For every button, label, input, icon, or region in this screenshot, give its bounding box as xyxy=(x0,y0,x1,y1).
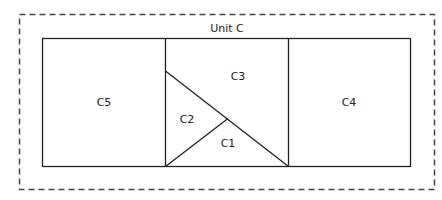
unit-boundary-dashed xyxy=(20,15,435,190)
unit-title: Unit C xyxy=(210,22,244,35)
region-c4-label: C4 xyxy=(342,96,357,109)
region-c2-label: C2 xyxy=(180,113,195,126)
diagonal-c2-c1-boundary xyxy=(166,119,229,167)
region-c1-label: C1 xyxy=(221,137,236,150)
region-c3-label: C3 xyxy=(231,70,246,83)
region-c5[interactable]: C5 xyxy=(97,96,112,109)
region-c2[interactable]: C2 xyxy=(180,113,195,126)
region-c4[interactable]: C4 xyxy=(342,96,357,109)
region-c1[interactable]: C1 xyxy=(221,137,236,150)
region-c3[interactable]: C3 xyxy=(231,70,246,83)
region-c5-label: C5 xyxy=(97,96,112,109)
unit-c-floor-plan: Unit C C5 C3 C2 C1 C4 xyxy=(0,0,442,200)
